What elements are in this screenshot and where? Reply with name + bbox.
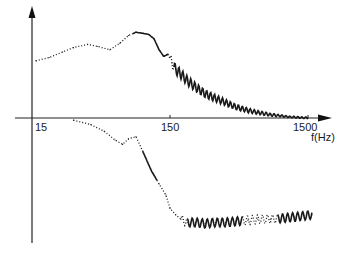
upper-curve-point: [163, 56, 164, 57]
lower-curve-point: [187, 222, 188, 223]
upper-curve-point: [73, 47, 74, 48]
lower-curve-segment-1: [143, 151, 157, 180]
upper-curve-point: [280, 115, 281, 116]
upper-curve-point: [195, 87, 196, 88]
lower-curve-point: [311, 214, 312, 215]
x-tick-label-0: 15: [35, 121, 47, 133]
upper-curve-segment-3: [174, 63, 308, 118]
upper-curve-point: [142, 33, 143, 34]
lower-curve-point: [294, 216, 295, 217]
chart: 15 150 1500 f(Hz): [0, 0, 350, 255]
lower-curve-point: [215, 222, 216, 223]
lower-curve-point: [180, 219, 181, 220]
series-upper-curve: [35, 32, 308, 119]
upper-curve-point: [135, 32, 136, 33]
upper-curve-point: [187, 80, 188, 81]
lower-curve-point: [205, 223, 206, 224]
lower-curve-point: [151, 170, 152, 171]
lower-curve-segment-4: [243, 214, 278, 225]
series-lower-curve: [73, 120, 313, 228]
upper-curve-point: [159, 49, 160, 50]
lower-curve-point: [122, 144, 123, 145]
upper-curve-point: [148, 34, 149, 35]
lower-curve-segment-2: [157, 180, 188, 225]
upper-curve-point: [49, 57, 50, 58]
lower-curve-point: [247, 220, 248, 221]
upper-curve-point: [128, 35, 129, 36]
upper-curve-point: [225, 102, 226, 103]
upper-curve-point: [109, 49, 110, 50]
x-axis: 15 150 1500 f(Hz): [15, 115, 335, 144]
upper-curve-point: [247, 110, 248, 111]
upper-curve-point: [270, 114, 271, 115]
lower-curve-point: [283, 218, 284, 219]
lower-curve-point: [142, 150, 143, 151]
lower-curve-point: [303, 215, 304, 216]
upper-curve-point: [307, 117, 308, 118]
upper-curve-segment-0: [36, 34, 132, 61]
lower-curve-point: [175, 214, 176, 215]
lower-curve-point: [115, 139, 116, 140]
upper-curve-segment-2: [168, 54, 174, 70]
lower-curve-point: [135, 136, 136, 137]
upper-curve-point: [154, 38, 155, 39]
x-axis-label: f(Hz): [311, 131, 335, 143]
upper-curve-point: [215, 98, 216, 99]
lower-curve-point: [169, 208, 170, 209]
lower-curve-point: [128, 138, 129, 139]
upper-curve-point: [97, 46, 98, 47]
upper-curve-segment-1: [132, 32, 168, 56]
upper-curve-point: [235, 106, 236, 107]
lower-curve-point: [73, 120, 74, 121]
lower-curve-point: [104, 131, 105, 132]
lower-curve-point: [270, 219, 271, 220]
x-tick-label-1: 150: [161, 121, 179, 133]
y-axis-arrow-icon: [29, 6, 36, 18]
lower-curve-point: [165, 194, 166, 195]
x-axis-arrow-icon: [318, 115, 332, 122]
lower-curve-segment-0: [74, 120, 143, 151]
upper-curve-point: [205, 93, 206, 94]
upper-curve-point: [167, 54, 168, 55]
lower-curve-point: [159, 183, 160, 184]
upper-curve-point: [119, 43, 120, 44]
lower-curve-point: [225, 222, 226, 223]
upper-curve-point: [62, 51, 63, 52]
lower-curve-point: [257, 219, 258, 220]
lower-curve-point: [195, 222, 196, 223]
lower-curve-point: [235, 221, 236, 222]
upper-curve-point: [171, 62, 172, 63]
upper-curve-point: [87, 44, 88, 45]
upper-curve-point: [299, 117, 300, 118]
upper-curve-point: [180, 73, 181, 74]
upper-curve-point: [257, 112, 258, 113]
lower-curve-point: [90, 124, 91, 125]
upper-curve-point: [35, 60, 36, 61]
upper-curve-point: [289, 116, 290, 117]
upper-curve-point: [175, 69, 176, 70]
